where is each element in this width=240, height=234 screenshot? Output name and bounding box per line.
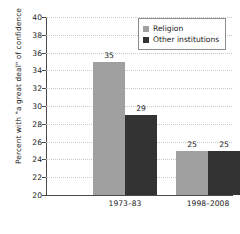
- legend: ReligionOther institutions: [138, 18, 226, 50]
- y-axis-title: Percent with "a great deal" of confidenc…: [12, 0, 26, 181]
- bar-value-label: 25: [219, 140, 229, 149]
- y-axis-tick-mark: [42, 70, 46, 71]
- legend-swatch-icon: [143, 26, 149, 32]
- bar-value-label: 35: [104, 51, 114, 60]
- gridline: [46, 88, 232, 89]
- legend-swatch-icon: [143, 37, 149, 43]
- y-axis-tick-mark: [42, 106, 46, 107]
- legend-entry: Other institutions: [143, 34, 219, 45]
- legend-entry: Religion: [143, 23, 219, 34]
- y-axis-tick-mark: [42, 53, 46, 54]
- x-axis-tick-label: 1973–83: [109, 199, 142, 208]
- legend-label: Other institutions: [153, 35, 219, 44]
- legend-label: Religion: [153, 24, 183, 33]
- x-axis-tick-label: 1998–2008: [187, 199, 229, 208]
- y-axis-tick-mark: [42, 88, 46, 89]
- y-axis-tick-mark: [42, 17, 46, 18]
- y-axis-tick-mark: [42, 177, 46, 178]
- y-axis-tick-mark: [42, 124, 46, 125]
- gridline: [46, 53, 232, 54]
- gridline: [46, 70, 232, 71]
- bar: 29: [125, 115, 157, 195]
- x-axis-line: [46, 195, 233, 196]
- bar-value-label: 25: [187, 140, 197, 149]
- bar: 35: [93, 62, 125, 196]
- y-axis-tick-mark: [42, 142, 46, 143]
- bar-value-label: 29: [136, 104, 146, 113]
- y-axis-tick-mark: [42, 195, 46, 196]
- bar: 25: [208, 151, 240, 196]
- y-axis-tick-mark: [42, 159, 46, 160]
- y-axis-tick-mark: [42, 35, 46, 36]
- bar: 25: [176, 151, 208, 196]
- bar-chart: Percent with "a great deal" of confidenc…: [0, 0, 240, 234]
